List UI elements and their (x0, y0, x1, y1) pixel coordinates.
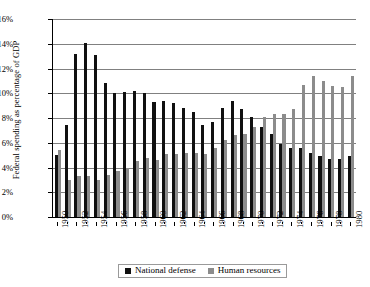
x-tick-mark (86, 222, 87, 224)
bar-group (239, 19, 249, 217)
bar-group (287, 19, 297, 217)
x-tick-mark (96, 222, 97, 226)
x-tick-label: 1970 (256, 211, 266, 228)
bar-group (131, 19, 141, 217)
x-tick-label: 1962 (178, 211, 188, 228)
bar-group (199, 19, 209, 217)
bar-human-resources (146, 158, 149, 217)
x-tick-mark (233, 222, 234, 226)
x-tick-mark (340, 222, 341, 224)
chart-legend: National defense Human resources (118, 264, 287, 278)
x-tick-mark (155, 222, 156, 226)
x-tick-mark (76, 222, 77, 226)
bar-group (102, 19, 112, 217)
legend-label-national-defense: National defense (135, 266, 196, 275)
bar-group (297, 19, 307, 217)
y-tick-label: 14% (0, 40, 13, 49)
x-tick-mark (204, 222, 205, 224)
x-tick-mark (125, 222, 126, 224)
bar-group (190, 19, 200, 217)
bar-group (336, 19, 346, 217)
x-tick-mark (301, 222, 302, 224)
x-tick-mark (331, 222, 332, 226)
y-tick-label: 0% (0, 213, 13, 222)
bar-group (121, 19, 131, 217)
bar-group (112, 19, 122, 217)
x-tick-label: 1954 (99, 211, 109, 228)
bar-human-resources (195, 153, 198, 217)
defense-swatch-icon (125, 268, 131, 274)
x-tick-label: 1968 (236, 211, 246, 228)
x-tick-label: 1952 (80, 211, 90, 228)
x-tick-label: 1960 (158, 211, 168, 228)
bar-group (92, 19, 102, 217)
y-tick-label: 16% (0, 15, 13, 24)
bar-human-resources (263, 117, 266, 217)
bar-group (317, 19, 327, 217)
bar-group (278, 19, 288, 217)
bar-human-resources (185, 153, 188, 217)
x-tick-mark (272, 222, 273, 226)
x-tick-label: 1974 (295, 211, 305, 228)
x-tick-label: 1964 (197, 211, 207, 228)
bar-group (258, 19, 268, 217)
bar-group (229, 19, 239, 217)
bar-group (209, 19, 219, 217)
bar-group (160, 19, 170, 217)
x-tick-mark (57, 222, 58, 226)
bar-group (170, 19, 180, 217)
x-tick-mark (184, 222, 185, 224)
bar-human-resources (322, 81, 325, 217)
bar-human-resources (214, 148, 217, 217)
bar-human-resources (136, 161, 139, 217)
bar-human-resources (331, 86, 334, 217)
x-tick-mark (262, 222, 263, 224)
bar-group (268, 19, 278, 217)
bar-human-resources (292, 109, 295, 217)
y-tick-label: 2% (0, 188, 13, 197)
legend-item-national-defense: National defense (125, 266, 196, 275)
y-tick-label: 12% (0, 65, 13, 74)
x-tick-label: 1958 (139, 211, 149, 228)
x-tick-mark (291, 222, 292, 226)
x-tick-mark (145, 222, 146, 224)
bar-group (248, 19, 258, 217)
bar-group (73, 19, 83, 217)
bar-human-resources (126, 168, 129, 218)
x-tick-mark (350, 222, 351, 226)
x-tick-mark (194, 222, 195, 226)
x-tick-mark (116, 222, 117, 226)
bar-human-resources (175, 154, 178, 217)
y-tick-label: 4% (0, 164, 13, 173)
bar-group (151, 19, 161, 217)
y-tick-label: 8% (0, 114, 13, 123)
x-tick-mark (213, 222, 214, 226)
legend-label-human-resources: Human resources (218, 266, 281, 275)
bar-human-resources (302, 85, 305, 217)
bar-human-resources (224, 140, 227, 217)
bar-human-resources (234, 135, 237, 217)
bar-group (180, 19, 190, 217)
bar-human-resources (156, 160, 159, 217)
x-tick-label: 1978 (334, 211, 344, 228)
bar-group (326, 19, 336, 217)
bar-group (141, 19, 151, 217)
x-axis-tick-labels: 1950195219541956195819601962196419661968… (52, 222, 355, 262)
x-tick-mark (252, 222, 253, 226)
y-tick-label: 6% (0, 139, 13, 148)
bar-human-resources (282, 114, 285, 217)
bar-group (53, 19, 63, 217)
bar-chart: Federal spending as percentage of GDP 0%… (0, 0, 370, 287)
x-tick-label: 1976 (315, 211, 325, 228)
bar-group (346, 19, 356, 217)
x-tick-mark (135, 222, 136, 226)
x-tick-label: 1956 (119, 211, 129, 228)
y-tick-label: 10% (0, 89, 13, 98)
x-tick-mark (311, 222, 312, 226)
bar-human-resources (243, 134, 246, 217)
x-tick-mark (282, 222, 283, 224)
bar-human-resources (312, 76, 315, 217)
x-tick-mark (106, 222, 107, 224)
x-tick-mark (321, 222, 322, 224)
x-tick-label: 1972 (275, 211, 285, 228)
